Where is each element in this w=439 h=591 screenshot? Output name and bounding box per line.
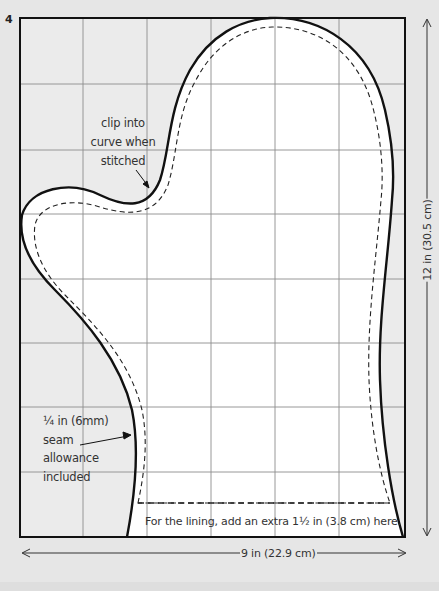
width-dimension-arrow (22, 549, 406, 557)
height-dimension-label: 12 in (30.5 cm) (418, 198, 437, 281)
clip-note-line: stitched (88, 152, 158, 171)
seam-allowance-annotation: ¼ in (6mm) seam allowance included (43, 412, 109, 486)
lining-annotation: For the lining, add an extra 1½ in (3.8 … (145, 512, 401, 531)
seam-note-line: ¼ in (6mm) (43, 412, 109, 431)
step-number: 4 (5, 13, 13, 26)
clip-curve-annotation: clip into curve when stitched (88, 114, 158, 171)
clip-note-line: curve when (88, 133, 158, 152)
seam-note-line: allowance (43, 449, 109, 468)
clip-note-line: clip into (88, 114, 158, 133)
seam-note-line: seam (43, 431, 109, 450)
seam-note-line: included (43, 468, 109, 487)
mitten-pattern-diagram (0, 0, 439, 591)
width-dimension-label: 9 in (22.9 cm) (240, 544, 317, 563)
page-bottom-edge (0, 582, 439, 591)
